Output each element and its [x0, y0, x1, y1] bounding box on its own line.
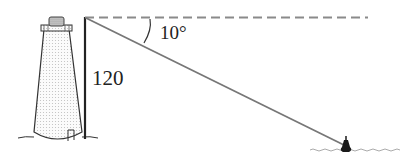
line-of-sight [86, 18, 346, 146]
diagram-canvas [0, 0, 407, 165]
water-waves [310, 149, 400, 151]
lighthouse-icon [34, 17, 82, 141]
height-label: 120 [92, 66, 124, 91]
angle-label: 10° [160, 22, 187, 44]
angle-arc [144, 19, 150, 43]
